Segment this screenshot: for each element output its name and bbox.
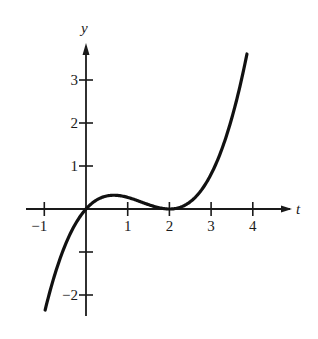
y-tick-label: 1 <box>71 158 79 174</box>
x-axis-label: t <box>296 201 301 217</box>
cubic-function-chart: −11234321−2 t y <box>0 0 318 339</box>
y-tick-label: 3 <box>71 72 79 88</box>
axes <box>26 43 292 316</box>
y-axis-label: y <box>79 20 88 36</box>
x-tick-label: 2 <box>166 218 174 234</box>
x-tick-label: −1 <box>31 218 47 234</box>
x-tick-label: 1 <box>124 218 132 234</box>
x-tick-label: 4 <box>249 218 257 234</box>
ticks <box>44 80 253 295</box>
function-curve <box>45 54 247 310</box>
y-tick-label: −2 <box>62 287 78 303</box>
t-axis-arrow-icon <box>281 206 292 213</box>
x-tick-label: 3 <box>207 218 215 234</box>
y-tick-label: 2 <box>71 115 79 131</box>
tick-labels: −11234321−2 <box>31 72 257 303</box>
y-axis-arrow-icon <box>83 43 90 55</box>
